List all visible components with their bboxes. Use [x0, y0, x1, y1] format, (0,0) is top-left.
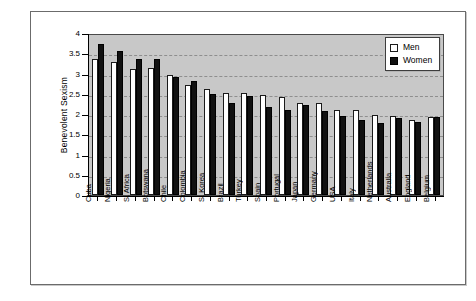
x-tick-label-text: S. Korea: [197, 173, 206, 202]
bar-group: [257, 35, 276, 195]
x-tick-label-text: Netherlands: [365, 162, 374, 202]
bar-women: [322, 111, 328, 195]
y-tick-mark: [82, 156, 88, 157]
bar-group: [238, 35, 257, 195]
x-tick-label-text: Chile: [159, 185, 168, 202]
x-tick-label: Nigeria: [107, 202, 126, 282]
y-tick-label: 1.5: [69, 131, 80, 139]
x-tick-label-text: USA: [328, 187, 337, 202]
x-tick-label: Belgium: [425, 202, 444, 282]
y-tick-label: 4: [76, 30, 80, 38]
y-tick-label: 3.5: [69, 50, 80, 58]
x-axis-labels: CubaNigeriaS. AfricaBotswanaChileColombi…: [88, 202, 444, 282]
x-tick-label-text: Nigeria: [103, 178, 112, 202]
x-tick-label-text: Belgium: [422, 175, 431, 202]
x-tick-label: S. Africa: [125, 202, 144, 282]
x-tick-label: Portugal: [275, 202, 294, 282]
legend-swatch-men: [390, 44, 398, 52]
x-tick-label: Cuba: [88, 202, 107, 282]
y-tick-mark: [82, 115, 88, 116]
x-tick-label: Chile: [163, 202, 182, 282]
y-tick-label: 2: [76, 111, 80, 119]
x-tick-label-text: Cuba: [84, 184, 93, 202]
x-tick-label: Italy: [350, 202, 369, 282]
bar-women: [210, 94, 216, 195]
x-tick-label-text: Australia: [384, 173, 393, 202]
bar-women: [98, 44, 104, 195]
x-tick-label: Brazil: [219, 202, 238, 282]
x-tick-label-text: Brazil: [216, 183, 225, 202]
bar-women: [247, 96, 253, 195]
bar-group: [275, 35, 294, 195]
bar-women: [154, 59, 160, 195]
x-tick-label: Colombia: [182, 202, 201, 282]
y-tick-label: 3: [76, 71, 80, 79]
figure: Benevolent Sexism 00.511.522.533.54 Cuba…: [0, 0, 476, 301]
bar-group: [108, 35, 127, 195]
x-tick-label-text: Germany: [309, 171, 318, 202]
x-tick-label: Botswana: [144, 202, 163, 282]
x-tick-label: USA: [332, 202, 351, 282]
x-tick-label-text: Portugal: [272, 174, 281, 202]
x-tick-label-text: Botswana: [141, 169, 150, 202]
y-tick-label: 0: [76, 192, 80, 200]
y-tick-mark: [82, 95, 88, 96]
x-tick-label-text: Spain: [253, 183, 262, 202]
bar-group: [201, 35, 220, 195]
x-tick-label: S. Korea: [200, 202, 219, 282]
y-axis: 00.511.522.533.54: [88, 34, 89, 196]
x-tick-label: Netherlands: [369, 202, 388, 282]
figure-frame: Benevolent Sexism 00.511.522.533.54 Cuba…: [30, 11, 466, 285]
y-tick-mark: [82, 176, 88, 177]
legend-label: Men: [403, 43, 420, 52]
x-tick-label: Turkey: [238, 202, 257, 282]
y-axis-title-label: Benevolent Sexism: [59, 77, 69, 153]
y-tick-label: 2.5: [69, 91, 80, 99]
bar-women: [340, 116, 346, 195]
legend-item-women: Women: [390, 54, 432, 67]
bar-women: [434, 117, 440, 195]
bar-group: [331, 35, 350, 195]
x-tick-label: Germany: [313, 202, 332, 282]
legend: MenWomen: [385, 37, 440, 71]
x-tick-label-text: Turkey: [234, 179, 243, 202]
bar-women: [378, 123, 384, 195]
y-tick-label: 1: [76, 152, 80, 160]
bar-women: [415, 122, 421, 195]
legend-swatch-women: [390, 57, 398, 65]
x-tick-label: England: [406, 202, 425, 282]
x-tick-label-text: Japan: [290, 182, 299, 202]
y-tick-mark: [82, 135, 88, 136]
bar-group: [219, 35, 238, 195]
legend-item-men: Men: [390, 41, 432, 54]
y-tick-mark: [82, 75, 88, 76]
x-tick-label-text: England: [403, 174, 412, 202]
x-tick-label: Spain: [257, 202, 276, 282]
bar-group: [89, 35, 108, 195]
y-tick-mark: [82, 54, 88, 55]
x-tick-label-text: Italy: [347, 188, 356, 202]
x-tick-label: Japan: [294, 202, 313, 282]
x-tick-label: Australia: [388, 202, 407, 282]
x-tick-label-text: S. Africa: [122, 174, 131, 202]
bar-women: [396, 118, 402, 195]
legend-label: Women: [403, 56, 432, 65]
y-tick-label: 0.5: [69, 172, 80, 180]
y-tick-mark: [82, 34, 88, 35]
x-tick-label-text: Colombia: [178, 170, 187, 202]
